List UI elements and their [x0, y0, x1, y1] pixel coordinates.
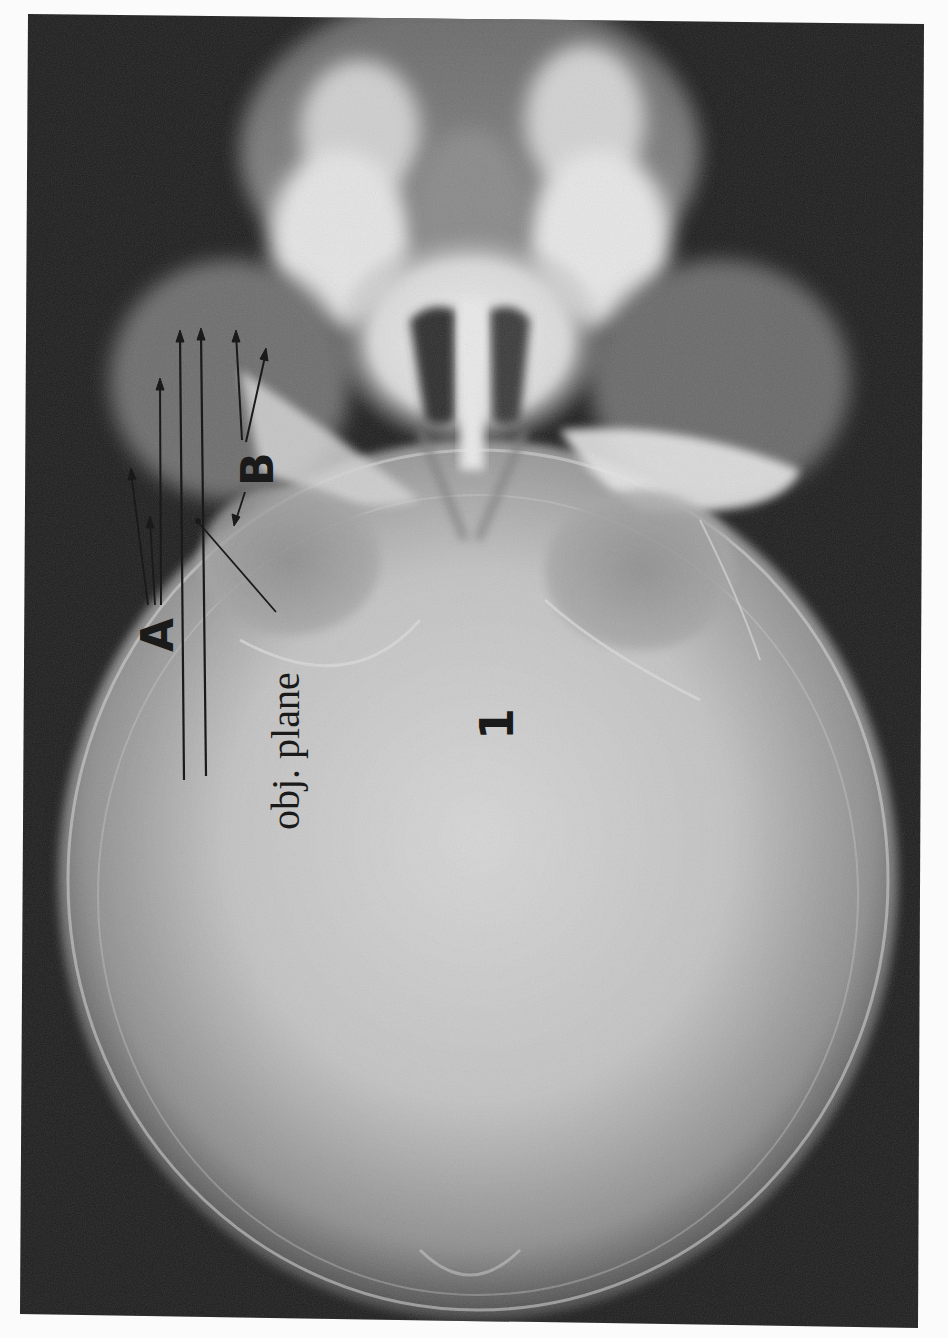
annotation-label-number-1: 1 [470, 708, 524, 740]
radiograph-image [0, 0, 948, 1338]
radiograph-film [0, 0, 948, 1338]
annotation-label-obj-plane: obj. plane [262, 672, 309, 830]
annotation-label-a: A [132, 618, 183, 652]
annotation-label-b: B [232, 452, 283, 486]
figure-page: A B obj. plane 1 [0, 0, 948, 1338]
